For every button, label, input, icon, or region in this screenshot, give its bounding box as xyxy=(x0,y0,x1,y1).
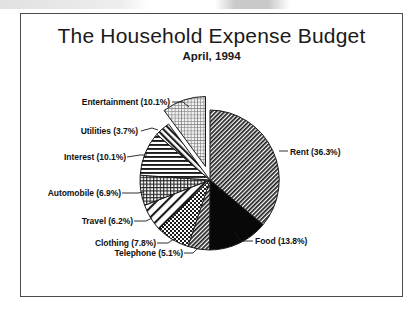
pie-label-utilities: Utilities (3.7%) xyxy=(81,126,138,136)
pie-label-entertainment: Entertainment (10.1%) xyxy=(82,97,170,107)
pie-label-rent: Rent (36.3%) xyxy=(290,147,340,157)
leader-line-travel xyxy=(134,218,152,221)
pie-svg-canvas xyxy=(0,0,414,311)
leader-line-clothing xyxy=(157,239,174,243)
pie-slices xyxy=(140,97,279,251)
pie-label-travel: Travel (6.2%) xyxy=(82,216,133,226)
leader-line-automobile xyxy=(122,192,144,193)
pie-label-telephone: Telephone (5.1%) xyxy=(115,248,183,258)
pie-chart-figure: The Household Expense Budget April, 1994 xyxy=(0,0,414,311)
pie-label-automobile: Automobile (6.9%) xyxy=(48,188,121,198)
leader-line-utilities xyxy=(141,128,158,131)
pie-label-interest: Interest (10.1%) xyxy=(64,152,126,162)
pie-label-food: Food (13.8%) xyxy=(255,236,307,246)
pie-label-clothing: Clothing (7.8%) xyxy=(95,238,156,248)
